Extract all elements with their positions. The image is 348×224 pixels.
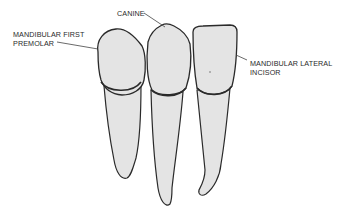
label-premolar-line1: MANDIBULAR FIRST: [13, 30, 85, 39]
label-canine: CANINE: [117, 9, 145, 18]
label-lateral-incisor: MANDIBULAR LATERAL INCISOR: [250, 59, 332, 77]
label-first-premolar: MANDIBULAR FIRST PREMOLAR: [13, 30, 85, 48]
tooth-diagram: MANDIBULAR FIRST PREMOLAR CANINE MANDIBU…: [0, 0, 348, 224]
label-incisor-line2: INCISOR: [250, 68, 332, 77]
label-canine-line1: CANINE: [117, 9, 145, 18]
label-premolar-line2: PREMOLAR: [13, 39, 85, 48]
label-incisor-line1: MANDIBULAR LATERAL: [250, 59, 332, 68]
